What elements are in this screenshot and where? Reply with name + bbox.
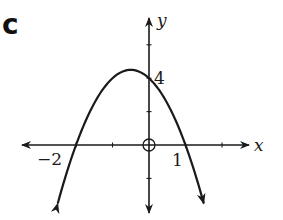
y-axis-label: y (156, 10, 167, 30)
parabola-curve (58, 70, 204, 204)
parabola-graph: c y x 4 −2 1 (0, 0, 283, 220)
x-axis-label: x (254, 135, 264, 155)
right-x-intercept-label: 1 (172, 150, 183, 170)
graph-canvas: c y x 4 −2 1 (0, 0, 283, 220)
y-intercept-label: 4 (154, 68, 165, 88)
left-x-intercept-label: −2 (37, 149, 62, 169)
panel-label: c (2, 8, 19, 41)
